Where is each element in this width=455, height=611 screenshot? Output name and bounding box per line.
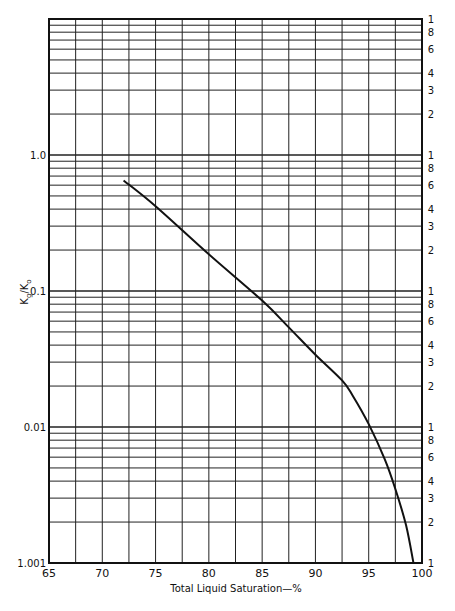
- y-right-tick-label: 4: [428, 204, 434, 215]
- y-right-tick-label: 8: [428, 435, 434, 446]
- y-right-tick-label: 8: [428, 163, 434, 174]
- y-right-tick-label: 2: [428, 517, 434, 528]
- y-right-tick-label: 1: [428, 422, 434, 433]
- x-tick-label: 85: [255, 567, 269, 580]
- data-series-kg-ko: [124, 180, 414, 563]
- y-right-tick-label: 3: [428, 85, 434, 96]
- y-right-tick-label: 2: [428, 381, 434, 392]
- y-tick-label: 0.01: [24, 422, 46, 433]
- grid-lines: [49, 19, 422, 563]
- y-right-tick-label: 1: [428, 286, 434, 297]
- y-right-tick-label: 8: [428, 27, 434, 38]
- y-right-tick-label: 4: [428, 340, 434, 351]
- y-right-tick-label: 8: [428, 299, 434, 310]
- y-right-tick-label: 4: [428, 68, 434, 79]
- y-right-tick-label: 6: [428, 316, 434, 327]
- x-tick-label: 90: [308, 567, 322, 580]
- y-tick-label: 1.0: [30, 150, 46, 161]
- x-axis-tick-labels: 65707580859095100: [42, 567, 433, 580]
- x-tick-label: 100: [412, 567, 433, 580]
- y-right-tick-label: 3: [428, 357, 434, 368]
- y-right-tick-label: 1: [428, 14, 434, 25]
- x-axis-title: Total Liquid Saturation—%: [169, 583, 302, 594]
- y-axis-right-labels: 1864321864321864321864321: [428, 14, 434, 569]
- y-right-tick-label: 2: [428, 109, 434, 120]
- y-right-tick-label: 6: [428, 180, 434, 191]
- x-tick-label: 95: [362, 567, 376, 580]
- x-tick-label: 70: [95, 567, 109, 580]
- x-tick-label: 65: [42, 567, 56, 580]
- chart-canvas: 1.00.10.011.001 186432186432186432186432…: [0, 0, 455, 611]
- y-right-tick-label: 4: [428, 476, 434, 487]
- y-right-tick-label: 3: [428, 221, 434, 232]
- y-right-tick-label: 6: [428, 44, 434, 55]
- y-right-tick-label: 3: [428, 493, 434, 504]
- y-right-tick-label: 6: [428, 452, 434, 463]
- y-right-tick-label: 1: [428, 150, 434, 161]
- x-tick-label: 75: [149, 567, 163, 580]
- x-tick-label: 80: [202, 567, 216, 580]
- y-right-tick-label: 2: [428, 245, 434, 256]
- kg-ko-curve: [124, 180, 414, 563]
- y-axis-left-labels: 1.00.10.011.001: [17, 150, 46, 569]
